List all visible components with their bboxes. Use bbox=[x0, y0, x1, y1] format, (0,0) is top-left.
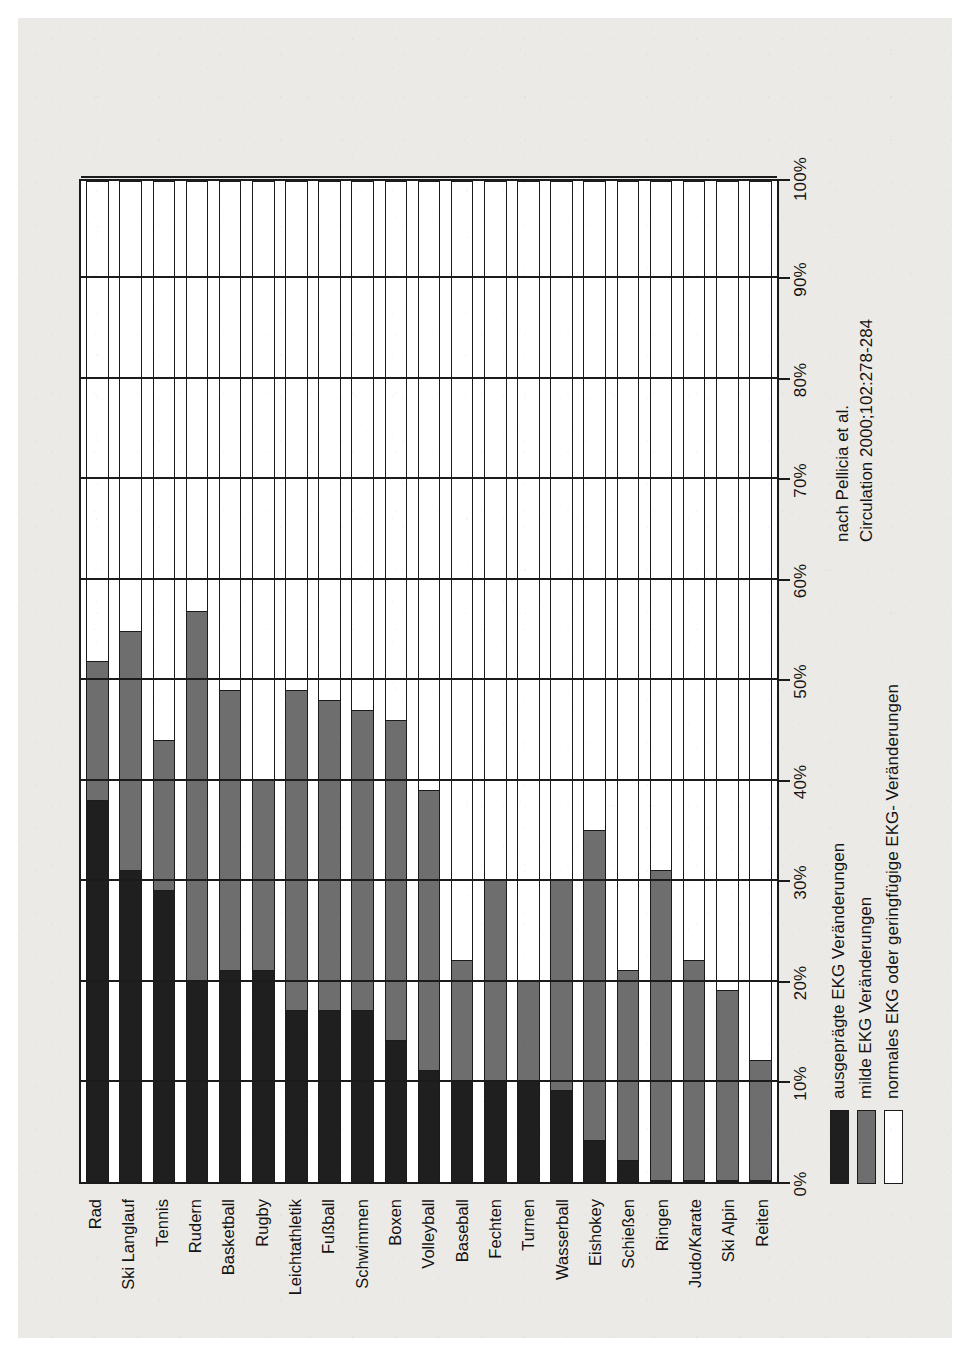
stacked-bar bbox=[119, 181, 142, 1182]
gridline bbox=[81, 880, 777, 882]
gridline bbox=[81, 779, 777, 781]
axis-tick bbox=[779, 179, 790, 181]
source-line-1: nach Pellicia et al. bbox=[831, 142, 855, 542]
bar-segment-mild bbox=[419, 791, 440, 1071]
bar-row bbox=[611, 181, 644, 1182]
stacked-bar bbox=[484, 181, 507, 1182]
bar-segment-mild bbox=[518, 981, 539, 1081]
bar-segment-normal bbox=[651, 182, 672, 871]
bar-row bbox=[578, 181, 611, 1182]
category-label: Ringen bbox=[646, 1190, 679, 1302]
stacked-bar bbox=[252, 181, 275, 1182]
axis-tick bbox=[779, 278, 790, 280]
bar-segment-mild bbox=[253, 781, 274, 971]
category-label: Schwimmen bbox=[346, 1190, 379, 1302]
bar-segment-normal bbox=[319, 182, 340, 701]
figure-page: RadSki LanglaufTennisRudernBasketballRug… bbox=[0, 0, 970, 1356]
stacked-bar bbox=[650, 181, 673, 1182]
plot-area bbox=[79, 179, 779, 1184]
bar-segment-mild bbox=[584, 831, 605, 1141]
category-label: Volleyball bbox=[412, 1190, 445, 1302]
category-label: Baseball bbox=[446, 1190, 479, 1302]
source-line-2: Circulation 2000;102:278-284 bbox=[855, 142, 879, 542]
rotated-chart-stage: RadSki LanglaufTennisRudernBasketballRug… bbox=[45, 54, 925, 1302]
axis-tick-label: 60% bbox=[791, 564, 811, 598]
legend-swatch-mild-icon bbox=[857, 1110, 876, 1184]
bar-segment-severe bbox=[253, 971, 274, 1181]
bar-segment-mild bbox=[651, 871, 672, 1181]
axis-tick-label: 50% bbox=[791, 664, 811, 698]
category-label: Boxen bbox=[379, 1190, 412, 1302]
axis-tick bbox=[779, 981, 790, 983]
category-label: Ski Alpin bbox=[712, 1190, 745, 1302]
category-label: Schießen bbox=[612, 1190, 645, 1302]
bar-segment-normal bbox=[87, 182, 108, 662]
bar-segment-severe bbox=[154, 891, 175, 1181]
category-label: Wasserball bbox=[546, 1190, 579, 1302]
gridline bbox=[81, 377, 777, 379]
bar-segment-severe bbox=[87, 801, 108, 1181]
axis-tick bbox=[779, 881, 790, 883]
bar-segment-mild bbox=[120, 632, 141, 872]
bar-segment-normal bbox=[584, 182, 605, 831]
category-label: Rudern bbox=[179, 1190, 212, 1302]
bar-row bbox=[214, 181, 247, 1182]
category-label: Rad bbox=[79, 1190, 112, 1302]
bar-segment-normal bbox=[684, 182, 705, 961]
stacked-bar bbox=[285, 181, 308, 1182]
value-axis-labels: 0%10%20%30%40%50%60%70%80%90%100% bbox=[791, 179, 817, 1184]
bar-rows bbox=[81, 181, 777, 1182]
bar-segment-normal bbox=[154, 182, 175, 741]
bar-row bbox=[81, 181, 114, 1182]
chart-legend: ausgeprägte EKG Veränderungen milde EKG … bbox=[829, 544, 910, 1184]
bar-row bbox=[180, 181, 213, 1182]
bar-row bbox=[512, 181, 545, 1182]
bar-segment-severe bbox=[120, 871, 141, 1181]
bar-segment-mild bbox=[750, 1061, 771, 1181]
stacked-bar bbox=[186, 181, 209, 1182]
axis-tick-label: 30% bbox=[791, 865, 811, 899]
axis-tick bbox=[779, 1082, 790, 1084]
bar-segment-normal bbox=[551, 182, 572, 881]
bar-segment-normal bbox=[485, 182, 506, 881]
bar-segment-normal bbox=[352, 182, 373, 711]
bar-segment-normal bbox=[717, 182, 738, 991]
legend-swatch-severe-icon bbox=[830, 1110, 849, 1184]
bar-segment-mild bbox=[319, 701, 340, 1011]
stacked-bar bbox=[418, 181, 441, 1182]
stacked-bar bbox=[153, 181, 176, 1182]
bar-segment-mild bbox=[717, 991, 738, 1181]
bar-segment-normal bbox=[120, 182, 141, 632]
stacked-bar bbox=[617, 181, 640, 1182]
axis-tick-label: 10% bbox=[791, 1066, 811, 1100]
bar-segment-severe bbox=[319, 1011, 340, 1181]
bar-segment-normal bbox=[452, 182, 473, 961]
bar-row bbox=[446, 181, 479, 1182]
bar-segment-normal bbox=[187, 182, 208, 612]
category-label: Fechten bbox=[479, 1190, 512, 1302]
bar-row bbox=[313, 181, 346, 1182]
bar-segment-severe bbox=[551, 1091, 572, 1181]
bar-segment-normal bbox=[253, 182, 274, 781]
source-citation: nach Pellicia et al. Circulation 2000;10… bbox=[831, 142, 879, 542]
bar-segment-mild bbox=[551, 881, 572, 1091]
bar-segment-mild bbox=[618, 971, 639, 1161]
bar-segment-severe bbox=[352, 1011, 373, 1181]
axis-tick bbox=[779, 780, 790, 782]
stacked-bar bbox=[550, 181, 573, 1182]
bar-segment-normal bbox=[618, 182, 639, 971]
bar-row bbox=[280, 181, 313, 1182]
bar-row bbox=[711, 181, 744, 1182]
bar-segment-mild bbox=[154, 741, 175, 891]
bar-row bbox=[744, 181, 777, 1182]
axis-tick-label: 40% bbox=[791, 765, 811, 799]
gridline bbox=[81, 679, 777, 681]
axis-tick bbox=[779, 579, 790, 581]
legend-item-severe: ausgeprägte EKG Veränderungen bbox=[829, 544, 849, 1184]
gridline bbox=[81, 980, 777, 982]
bar-segment-severe bbox=[220, 971, 241, 1181]
bar-row bbox=[379, 181, 412, 1182]
stacked-bar bbox=[86, 181, 109, 1182]
stacked-bar bbox=[716, 181, 739, 1182]
bar-row bbox=[644, 181, 677, 1182]
